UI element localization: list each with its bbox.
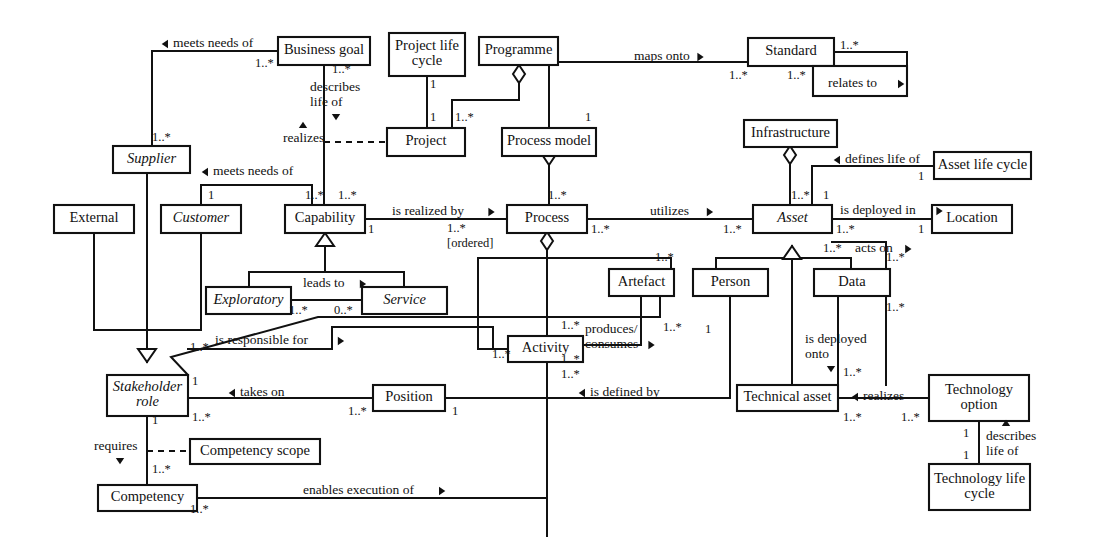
direction-arrow-icon: [332, 114, 340, 120]
multiplicity-m-asset-l: 1..*: [723, 222, 742, 236]
multiplicity-m-acts-on-mult: 1..*: [823, 241, 842, 255]
edge-process-artefact: [478, 258, 671, 269]
class-node-competency[interactable]: Competency: [98, 485, 197, 511]
multiplicity-m-data-r2: 1..*: [886, 300, 905, 314]
direction-arrow-icon: [162, 40, 168, 48]
class-label-data: Data: [838, 273, 866, 289]
class-node-exploratory[interactable]: Exploratory: [206, 287, 291, 314]
direction-arrow-icon: [202, 168, 208, 176]
multiplicity-m-sr-b: 1..*: [192, 410, 211, 424]
multiplicity-m-bg-down: 1..*: [332, 62, 351, 76]
class-node-asset-life-cycle[interactable]: Asset life cycle: [934, 152, 1031, 179]
association-text-describes-life-of-2: life of: [986, 443, 1019, 458]
direction-arrow-icon: [229, 389, 235, 397]
association-text-meets-needs-of-2: meets needs of: [213, 163, 294, 178]
direction-arrow-icon: [299, 122, 307, 128]
class-node-data[interactable]: Data: [814, 269, 890, 296]
association-label-describes-life-of-2: describeslife of: [986, 428, 1036, 458]
class-label-technology-life-cycle: cycle: [964, 485, 995, 501]
class-node-capability[interactable]: Capability: [285, 205, 365, 233]
aggregation-diamond: [541, 232, 553, 250]
class-label-business-goal: Business goal: [284, 41, 364, 57]
class-label-asset: Asset: [776, 209, 809, 225]
class-label-process: Process: [525, 209, 570, 225]
association-label-relates-to: relates to: [828, 75, 877, 90]
association-text-leads-to: leads to: [303, 275, 345, 290]
class-label-project-life-cycle: cycle: [412, 52, 443, 68]
multiplicity-m-person-1: 1: [705, 322, 711, 336]
association-label-takes-on: takes on: [240, 384, 285, 399]
multiplicity-m-expl-1: 1..*: [289, 303, 308, 317]
class-node-service[interactable]: Service: [362, 287, 447, 314]
association-label-enables-execution-of: enables execution of: [303, 482, 414, 497]
class-node-programme[interactable]: Programme: [479, 37, 558, 65]
multiplicity-m-sr-left1: 1: [152, 413, 158, 427]
multiplicity-m-prog-1: 1..*: [455, 110, 474, 124]
class-node-artefact[interactable]: Artefact: [609, 269, 674, 296]
association-text-relates-to: relates to: [828, 75, 877, 90]
class-node-infrastructure[interactable]: Infrastructure: [744, 120, 837, 147]
association-text-produces-consumes: produces/: [585, 321, 638, 336]
association-text-is-deployed-onto: onto: [805, 346, 829, 361]
association-label-is-responsible-for: is responsible for: [215, 332, 308, 347]
multiplicity-m-cap-t1: 1..*: [305, 188, 324, 202]
class-node-customer[interactable]: Customer: [161, 205, 241, 233]
association-label-produces-consumes: produces/consumes: [585, 321, 638, 351]
class-node-technology-option[interactable]: Technologyoption: [929, 375, 1029, 421]
association-text-is-defined-by: is defined by: [590, 384, 660, 399]
multiplicity-m-proc-1: 1..*: [447, 221, 466, 235]
multiplicity-m-std-r1: 1..*: [840, 38, 859, 52]
multiplicity-m-comp-b: 1..*: [190, 502, 209, 516]
class-label-infrastructure: Infrastructure: [751, 124, 830, 140]
class-node-project-life-cycle[interactable]: Project lifecycle: [389, 33, 465, 76]
association-label-meets-needs-of-2: meets needs of: [213, 163, 294, 178]
edge-customer-capability: [201, 185, 312, 205]
edge-assetlifecycle-asset: [812, 166, 934, 205]
association-text-utilizes: utilizes: [650, 203, 689, 218]
multiplicity-m-artefact-t: 1..*: [655, 250, 674, 264]
multiplicity-m-pos-r: 1: [452, 404, 458, 418]
class-label-supplier: Supplier: [127, 150, 176, 166]
class-node-process[interactable]: Process: [507, 205, 587, 233]
multiplicity-m-proj-top: 1: [430, 110, 436, 124]
class-node-process-model[interactable]: Process model: [502, 128, 596, 156]
class-label-customer: Customer: [173, 209, 230, 225]
direction-arrow-icon: [905, 245, 911, 253]
class-node-location[interactable]: Location: [932, 205, 1012, 233]
edge-asset-acts-on-data: [832, 242, 886, 385]
class-node-position[interactable]: Position: [373, 385, 445, 411]
class-node-external[interactable]: External: [54, 205, 134, 233]
multiplicity-m-pm-1: 1: [585, 110, 591, 124]
class-label-project-life-cycle: Project life: [395, 37, 459, 53]
association-text-maps-onto: maps onto: [634, 48, 690, 63]
class-node-technology-life-cycle[interactable]: Technology lifecycle: [929, 464, 1030, 510]
class-node-standard[interactable]: Standard: [748, 38, 834, 66]
class-node-technical-asset[interactable]: Technical asset: [737, 385, 838, 411]
class-node-business-goal[interactable]: Business goal: [278, 37, 370, 65]
class-node-supplier[interactable]: Supplier: [113, 146, 190, 173]
direction-arrow-icon: [834, 156, 840, 164]
class-label-artefact: Artefact: [618, 273, 666, 289]
association-label-maps-onto: maps onto: [634, 48, 690, 63]
class-label-capability: Capability: [295, 209, 356, 225]
aggregation-diamond: [513, 65, 525, 83]
multiplicity-m-to-l: 1..*: [901, 410, 920, 424]
direction-arrow-icon: [697, 53, 703, 61]
class-label-position: Position: [385, 388, 433, 404]
multiplicity-m-asset-r1: 1..*: [836, 222, 855, 236]
association-label-is-deployed-onto: is deployedonto: [805, 331, 867, 361]
direction-arrow-icon: [579, 389, 585, 397]
multiplicity-m-serv-0: 0..*: [334, 303, 353, 317]
class-node-person[interactable]: Person: [693, 269, 768, 296]
association-text-is-deployed-onto: is deployed: [805, 331, 867, 346]
class-node-competency-scope[interactable]: Competency scope: [190, 439, 320, 464]
class-node-stakeholder-role[interactable]: Stakeholderrole: [107, 375, 188, 416]
class-node-asset[interactable]: Asset: [753, 205, 832, 233]
class-node-project[interactable]: Project: [387, 128, 465, 156]
direction-arrow-icon: [116, 458, 124, 464]
association-text-defines-life-of: defines life of: [845, 151, 920, 166]
diagram-canvas: Business goalProject lifecycleProgrammeS…: [0, 0, 1097, 537]
multiplicity-m-bg-left: 1..*: [255, 56, 274, 70]
multiplicity-m-ta-b: 1..*: [843, 410, 862, 424]
association-label-meets-needs-of-1: meets needs of: [173, 35, 254, 50]
